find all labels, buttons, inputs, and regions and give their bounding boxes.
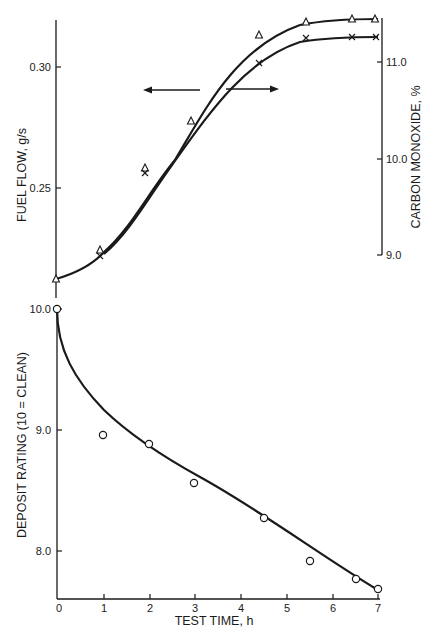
circle-marker (99, 431, 106, 438)
deposit-tick-label-100: 10.0 (30, 303, 51, 315)
fuel-flow-markers (53, 15, 379, 282)
deposit-markers (53, 305, 381, 592)
fuel-flow-axis-title: FUEL FLOW, g/s (15, 128, 29, 222)
fuel-tick-label-030: 0.30 (30, 61, 51, 73)
left-axis-arrow (143, 87, 200, 94)
time-tick-label-3: 3 (192, 602, 198, 614)
circle-marker (145, 440, 152, 447)
deposit-tick-label-90: 9.0 (36, 424, 51, 436)
circle-marker (190, 479, 197, 486)
circle-marker (306, 557, 313, 564)
deposit-tick-label-80: 8.0 (36, 545, 51, 557)
circle-marker (53, 305, 60, 312)
co-tick-label-90: 9.0 (386, 249, 401, 261)
time-axis-ticks (104, 594, 378, 599)
circle-marker (374, 585, 381, 592)
triangle-marker (256, 31, 263, 38)
time-tick-label-2: 2 (147, 602, 153, 614)
time-axis-title: TEST TIME, h (175, 614, 254, 628)
circle-marker (352, 575, 359, 582)
time-tick-label-0: 0 (56, 602, 62, 614)
co-tick-label-100: 10.0 (386, 153, 407, 165)
time-tick-label-7: 7 (375, 602, 381, 614)
deposit-axis-title: DEPOSIT RATING (10 = CLEAN) (15, 352, 29, 538)
x-marker (97, 253, 103, 259)
time-tick-label-4: 4 (238, 602, 244, 614)
triangle-marker (303, 18, 310, 25)
fuel-flow-curve (56, 19, 378, 279)
time-tick-label-1: 1 (101, 602, 107, 614)
deposit-curve (57, 309, 378, 590)
co-curve (104, 37, 378, 254)
chart: 0.30 0.25 FUEL FLOW, g/s 11.0 10.0 9.0 C… (0, 0, 436, 637)
co-axis-title: CARBON MONOXIDE, % (409, 85, 423, 228)
circle-marker (260, 514, 267, 521)
co-tick-label-110: 11.0 (386, 56, 407, 68)
triangle-marker (97, 246, 104, 253)
time-tick-label-6: 6 (330, 602, 336, 614)
fuel-tick-label-025: 0.25 (30, 182, 51, 194)
triangle-marker (188, 117, 195, 124)
time-tick-label-5: 5 (284, 602, 290, 614)
